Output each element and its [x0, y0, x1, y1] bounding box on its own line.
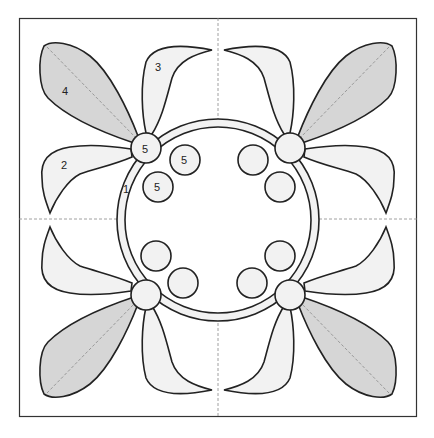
berry: [168, 268, 198, 298]
flower-center-br: [275, 280, 305, 310]
label-flower-center: 5: [142, 143, 148, 155]
berry: [265, 172, 295, 202]
quilt-block-diagram: 1 2 3 4 5 5 5: [0, 0, 434, 438]
flower-center-bl: [131, 280, 161, 310]
flower-center-tr: [275, 133, 305, 163]
berry: [141, 241, 171, 271]
label-berry-a: 5: [181, 154, 187, 166]
label-petal-top: 3: [155, 61, 161, 73]
berry: [265, 241, 295, 271]
label-ring: 1: [123, 183, 129, 195]
label-petal-left: 2: [61, 159, 67, 171]
label-berry-b: 5: [154, 181, 160, 193]
label-leaf: 4: [62, 85, 68, 97]
berry: [237, 268, 267, 298]
berry: [238, 145, 268, 175]
